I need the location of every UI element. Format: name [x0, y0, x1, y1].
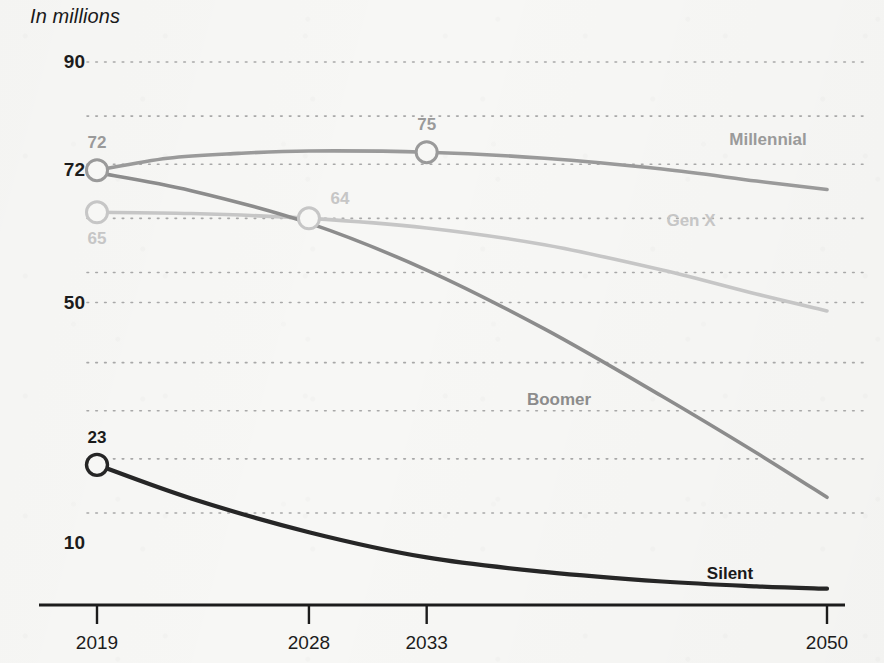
- x-tick-label-2050: 2050: [806, 632, 848, 654]
- y-tick-label-50: 50: [30, 292, 85, 314]
- series-line-boomer: [97, 173, 827, 498]
- marker-millennial-2033: [416, 142, 437, 163]
- marker-gen-x-2028: [298, 208, 319, 229]
- x-tick-label-2028: 2028: [288, 632, 330, 654]
- data-point-markers: [87, 142, 438, 476]
- y-tick-label-90: 90: [30, 51, 85, 73]
- x-axis: [39, 605, 845, 624]
- x-tick-label-2019: 2019: [76, 632, 118, 654]
- series-label-silent: Silent: [707, 564, 753, 584]
- point-label-millennial-2033: 75: [417, 115, 436, 135]
- marker-millennial-2019: [87, 160, 108, 181]
- marker-gen-x-2019: [87, 202, 108, 223]
- chart-screenshot: In millions 90725010 2019202820332050 Mi…: [0, 0, 884, 663]
- point-label-silent-2019: 23: [88, 428, 107, 448]
- series-lines: [97, 151, 827, 589]
- point-label-gen-x-2019: 65: [88, 229, 107, 249]
- y-tick-label-10: 10: [30, 532, 85, 554]
- point-label-millennial-2019: 72: [88, 133, 107, 153]
- y-tick-label-72: 72: [30, 159, 85, 181]
- x-tick-label-2033: 2033: [406, 632, 448, 654]
- series-label-millennial: Millennial: [729, 130, 806, 150]
- series-line-millennial: [97, 151, 827, 190]
- series-label-gen-x: Gen X: [666, 211, 715, 231]
- series-line-gen-x: [97, 212, 827, 311]
- series-label-boomer: Boomer: [527, 390, 591, 410]
- marker-silent-2019: [87, 454, 108, 475]
- point-label-gen-x-2028: 64: [330, 189, 349, 209]
